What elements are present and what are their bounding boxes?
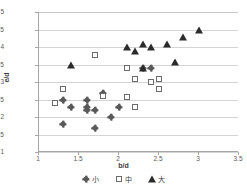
data-point-square xyxy=(124,94,130,100)
data-point-diamond xyxy=(59,96,66,103)
gridline xyxy=(39,30,238,31)
y-axis-tick-label: 4.5 xyxy=(0,27,4,34)
data-point-square xyxy=(156,86,162,92)
x-axis-title: b/d xyxy=(0,162,247,169)
data-point-square xyxy=(100,93,106,99)
gridline xyxy=(39,100,238,101)
data-point-diamond xyxy=(91,106,98,113)
data-point-diamond xyxy=(115,103,122,110)
data-point-square xyxy=(52,100,58,106)
data-point-square xyxy=(60,86,66,92)
data-point-triangle xyxy=(139,65,147,72)
data-point-triangle xyxy=(171,58,179,65)
data-point-triangle xyxy=(147,44,155,51)
data-point-square xyxy=(156,76,162,82)
data-point-square xyxy=(92,52,98,58)
chart-legend: 小中大 xyxy=(0,175,247,183)
gridline xyxy=(39,117,238,118)
data-point-triangle xyxy=(123,44,131,51)
y-axis-tick-label: 5 xyxy=(0,9,4,16)
data-point-diamond xyxy=(83,96,90,103)
legend-label: 大 xyxy=(158,176,165,183)
legend-label: 中 xyxy=(125,176,132,183)
square-marker-icon xyxy=(115,175,123,183)
data-point-diamond xyxy=(107,113,114,120)
data-point-diamond xyxy=(91,124,98,131)
data-point-square xyxy=(132,76,138,82)
data-point-triangle xyxy=(179,34,187,41)
legend-item: 大 xyxy=(148,175,165,183)
data-point-triangle xyxy=(195,27,203,34)
data-point-diamond xyxy=(59,120,66,127)
y-axis-tick-label: 1 xyxy=(0,149,4,156)
data-point-diamond xyxy=(147,64,154,71)
data-point-square xyxy=(124,65,130,71)
plot-area xyxy=(38,12,238,152)
legend-label: 小 xyxy=(92,176,99,183)
y-axis-tick-label: 1.5 xyxy=(0,132,4,139)
gridline xyxy=(39,152,238,153)
legend-item: 中 xyxy=(115,175,132,183)
gridline xyxy=(39,12,238,13)
gridline xyxy=(39,135,238,136)
data-point-square xyxy=(132,104,138,110)
data-point-triangle xyxy=(67,62,75,69)
data-point-square xyxy=(148,79,154,85)
y-axis-title: e/d xyxy=(3,50,10,106)
data-point-diamond xyxy=(67,103,74,110)
data-point-triangle xyxy=(163,41,171,48)
y-axis-tick-label: 2 xyxy=(0,114,4,121)
data-point-triangle xyxy=(139,40,147,47)
data-point-triangle xyxy=(131,47,139,54)
legend-item: 小 xyxy=(82,175,99,183)
scatter-chart: 11.522.533.544.55 11.522.533.5 b/d e/d 小… xyxy=(0,0,247,192)
gridline xyxy=(39,82,238,83)
triangle-marker-icon xyxy=(148,175,156,183)
diamond-marker-icon xyxy=(82,175,90,183)
